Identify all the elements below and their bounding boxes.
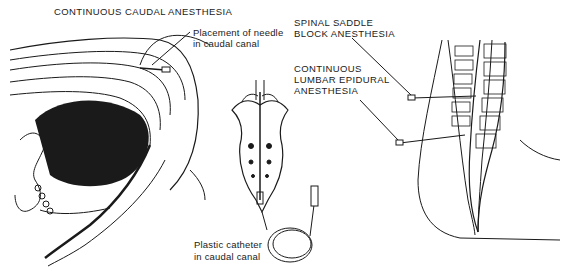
fetal-head-shading [35,101,149,187]
epidural-label-line1: CONTINUOUS [294,63,362,74]
needle-leader-line [152,32,190,65]
anatomical-illustration [0,0,572,271]
plastic-catheter [262,186,318,262]
sacrum-drawing [232,80,288,212]
catheter-callout-line1: Plastic catheter [194,239,262,250]
caudal-panel-title: CONTINUOUS CAUDAL ANESTHESIA [54,6,232,17]
catheter-callout-line2: in caudal canal [194,251,260,262]
saddle-block-label-line2: BLOCK ANESTHESIA [294,28,395,39]
saddle-block-label-line1: SPINAL SADDLE [294,17,373,28]
epidural-label-line3: ANESTHESIA [294,85,358,96]
needle-callout-line2: in caudal canal [193,38,259,49]
epidural-leader-line [360,100,398,140]
epidural-label-line2: LUMBAR EPIDURAL [294,74,390,85]
epidural-needle [400,135,465,143]
needle-callout-line1: Placement of needle [193,27,283,38]
lumbar-spine-drawing [418,40,560,240]
